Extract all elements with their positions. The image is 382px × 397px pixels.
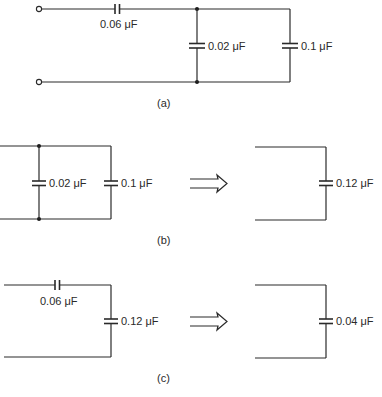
c-shunt-cap-label: 0.12 μF	[121, 315, 159, 327]
shunt-cap-2-label: 0.1 μF	[301, 40, 333, 52]
b-eq-cap-label: 0.12 μF	[336, 177, 374, 189]
b-cap-1-label: 0.02 μF	[49, 177, 87, 189]
series-capacitor-icon	[115, 4, 120, 14]
circuit-diagram: 0.06 μF 0.02 μF 0.1 μF (a)	[0, 0, 382, 397]
series-cap-label: 0.06 μF	[100, 18, 138, 30]
panel-b-caption: (b)	[157, 234, 170, 246]
b-capacitor-1-icon	[32, 181, 46, 186]
panel-c: 0.06 μF 0.12 μF 0.04 μF (c)	[4, 280, 374, 384]
c-equivalent-capacitor-icon	[319, 319, 333, 324]
c-eq-cap-label: 0.04 μF	[336, 315, 374, 327]
panel-a-caption: (a)	[157, 97, 170, 109]
c-series-capacitor-icon	[55, 280, 60, 290]
b-cap-2-label: 0.1 μF	[121, 177, 153, 189]
terminal-top-icon	[36, 6, 41, 11]
shunt-cap-1-label: 0.02 μF	[208, 40, 246, 52]
double-arrow-right-icon	[190, 175, 227, 192]
panel-a: 0.06 μF 0.02 μF 0.1 μF (a)	[36, 4, 332, 109]
c-series-cap-label: 0.06 μF	[40, 295, 78, 307]
terminal-bottom-icon	[36, 79, 41, 84]
shunt-capacitor-2-icon	[282, 44, 298, 49]
panel-c-caption: (c)	[157, 372, 170, 384]
panel-b: 0.02 μF 0.1 μF 0.12 μF (b)	[0, 144, 374, 246]
double-arrow-right-icon	[190, 313, 227, 330]
b-equivalent-capacitor-icon	[319, 181, 333, 186]
b-capacitor-2-icon	[104, 181, 118, 186]
shunt-capacitor-1-icon	[189, 44, 205, 49]
c-shunt-capacitor-icon	[104, 319, 118, 324]
